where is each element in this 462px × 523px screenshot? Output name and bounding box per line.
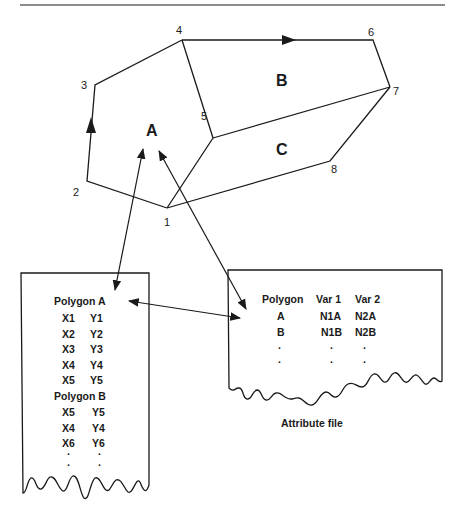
polygon-label-b: B [276, 72, 288, 89]
attr-ellipsis: · [363, 342, 367, 354]
attr-header-polygon: Polygon [262, 293, 303, 305]
coord-y: Y3 [90, 343, 103, 355]
coord-ellipsis: · [98, 459, 102, 471]
coord-x: X4 [62, 359, 75, 371]
vertex-label-4: 4 [176, 24, 182, 36]
attr-ellipsis: · [330, 356, 334, 368]
attr-ellipsis: · [278, 356, 282, 368]
attr-ellipsis: · [363, 356, 367, 368]
coord-x: X5 [62, 406, 75, 418]
coord-x: X4 [62, 422, 75, 434]
vertex-label-6: 6 [368, 26, 374, 38]
attr-cell: A [277, 310, 285, 322]
direction-arrow-icon [282, 35, 296, 45]
arrow-polygon-a-to-attribute-file [159, 151, 246, 309]
vertex-label-3: 3 [81, 79, 87, 91]
coord-y: Y1 [90, 312, 103, 324]
coord-y: Y4 [90, 359, 103, 371]
vertex-label-8: 8 [331, 163, 337, 175]
coord-y: Y5 [90, 374, 103, 386]
polygon-label-c: C [276, 141, 288, 158]
attr-cell: B [277, 326, 285, 338]
coord-y: Y2 [90, 328, 103, 340]
coord-y: Y5 [92, 406, 105, 418]
attr-ellipsis: · [278, 342, 282, 354]
coord-row-polygon-b: Polygon B [54, 390, 106, 402]
attr-cell: N1A [320, 310, 341, 322]
edge-1-2-3-4 [87, 40, 182, 208]
coord-row-polygon-a: Polygon A [54, 295, 106, 307]
coord-x: X1 [62, 312, 75, 324]
vertex-label-2: 2 [73, 186, 79, 198]
direction-arrow-icon [86, 117, 96, 133]
coord-x: X5 [62, 374, 75, 386]
vertex-label-1: 1 [164, 216, 170, 228]
vertex-label-5: 5 [201, 110, 207, 122]
edge-5-7 [213, 87, 390, 138]
coord-x: X3 [62, 343, 75, 355]
attribute-file-caption: Attribute file [281, 417, 343, 429]
attr-cell: N2A [355, 310, 376, 322]
coord-ellipsis: · [67, 459, 71, 471]
coord-x: X2 [62, 328, 75, 340]
coord-y: Y4 [92, 422, 105, 434]
attr-header-var1: Var 1 [316, 293, 341, 305]
attr-cell: N2B [355, 326, 376, 338]
polygon-label-a: A [146, 122, 158, 139]
attr-cell: N1B [321, 326, 342, 338]
attr-ellipsis: · [330, 342, 334, 354]
edge-4-5-1 [167, 40, 213, 208]
arrow-polygon-a-to-coordinate-file [115, 149, 143, 290]
polygon-network [87, 40, 390, 208]
polygon-topology-diagram: 1 2 3 4 5 6 7 8 A B C Polygon A X1 Y1 X2… [0, 0, 462, 523]
vertex-label-7: 7 [393, 85, 399, 97]
attr-header-var2: Var 2 [355, 293, 380, 305]
